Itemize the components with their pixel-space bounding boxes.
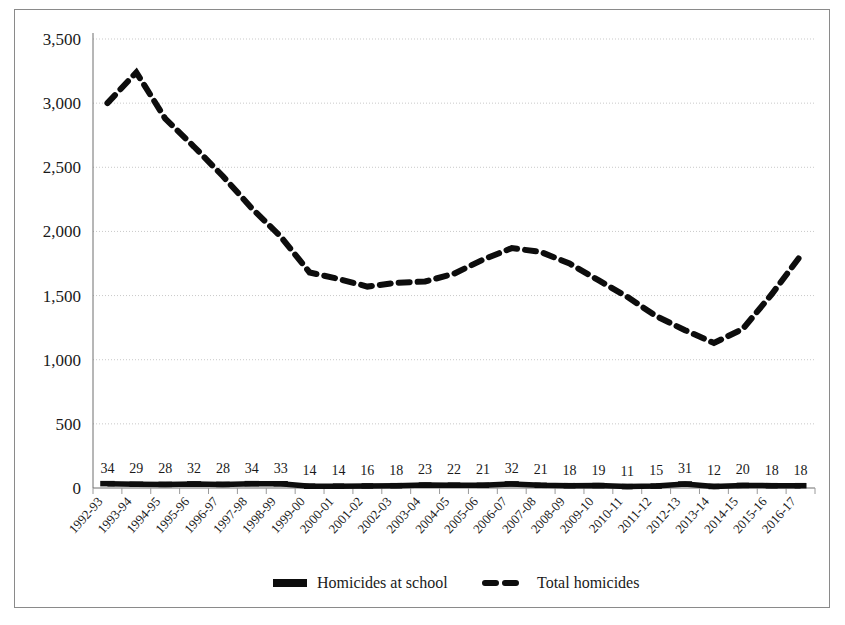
data-point-label: 21 — [534, 462, 548, 477]
data-point-label: 18 — [794, 463, 808, 478]
data-point-label: 15 — [649, 463, 663, 478]
data-point-label: 11 — [621, 464, 634, 479]
total-homicides-line — [107, 72, 800, 343]
series-total-homicides — [107, 72, 800, 343]
data-point-label: 21 — [476, 462, 490, 477]
data-point-label: 34 — [245, 461, 259, 476]
y-axis-tick-label: 1,500 — [43, 287, 81, 306]
data-point-label: 14 — [331, 463, 345, 478]
chart-legend: Homicides at schoolTotal homicides — [273, 574, 639, 591]
data-point-label: 16 — [360, 463, 374, 478]
data-point-label: 18 — [765, 463, 779, 478]
x-axis-line-group — [93, 33, 815, 488]
legend-label-homicides-at-school: Homicides at school — [317, 574, 448, 591]
data-point-label: 18 — [563, 463, 577, 478]
y-axis-tick-label: 3,000 — [43, 94, 81, 113]
data-point-label: 14 — [303, 463, 317, 478]
legend-label-total-homicides: Total homicides — [537, 574, 639, 591]
gridlines-group — [93, 39, 815, 424]
y-axis-tick-label: 1,000 — [43, 351, 81, 370]
data-point-label: 29 — [129, 461, 143, 476]
x-axis-category-labels: 1992-931993-941994-951995-961996-971997-… — [66, 494, 800, 537]
data-point-label: 18 — [389, 463, 403, 478]
data-point-label: 31 — [678, 461, 692, 476]
y-axis-tick-label: 0 — [73, 479, 82, 498]
data-point-label: 28 — [158, 461, 172, 476]
y-axis-tick-label: 2,500 — [43, 158, 81, 177]
data-point-label: 28 — [216, 461, 230, 476]
y-axis-tick-label: 500 — [56, 415, 82, 434]
data-point-label: 19 — [591, 463, 605, 478]
series-homicides-at-school — [100, 484, 806, 487]
y-axis-tick-label: 2,000 — [43, 222, 81, 241]
chart-frame: 05001,0001,5002,0002,5003,0003,500 34292… — [14, 9, 830, 608]
data-point-label: 22 — [447, 462, 461, 477]
data-point-label: 12 — [707, 463, 721, 478]
line-chart-svg: 05001,0001,5002,0002,5003,0003,500 34292… — [15, 10, 831, 609]
chart-canvas: 05001,0001,5002,0002,5003,0003,500 34292… — [15, 10, 831, 609]
data-point-labels: 3429283228343314141618232221322118191115… — [100, 461, 807, 479]
data-point-label: 33 — [274, 461, 288, 476]
data-point-label: 20 — [736, 462, 750, 477]
x-axis-tick-marks — [93, 488, 815, 494]
data-point-label: 32 — [505, 461, 519, 476]
y-axis-tick-label: 3,500 — [43, 30, 81, 49]
data-point-label: 34 — [100, 461, 114, 476]
data-point-label: 32 — [187, 461, 201, 476]
data-point-label: 23 — [418, 462, 432, 477]
y-axis-tick-labels: 05001,0001,5002,0002,5003,0003,500 — [43, 30, 81, 498]
